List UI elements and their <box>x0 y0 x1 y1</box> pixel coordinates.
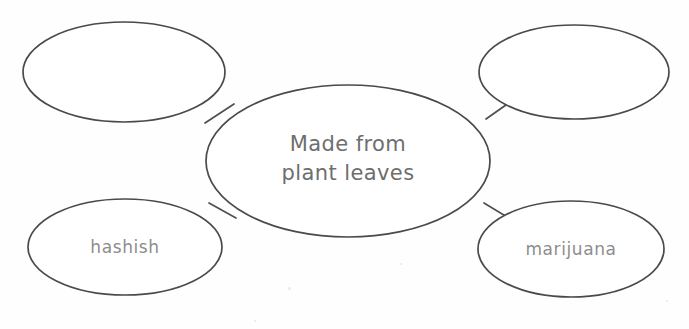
bubble-top-right[interactable] <box>479 25 669 119</box>
worksheet-page: Made from plant leaves hashish marijuana <box>0 0 689 329</box>
bubble-center[interactable] <box>206 85 490 237</box>
bubble-bottom-right[interactable] <box>478 201 664 297</box>
bubble-top-left[interactable] <box>23 22 225 122</box>
bubble-bottom-left[interactable] <box>28 199 222 295</box>
concept-map-canvas <box>0 0 689 329</box>
